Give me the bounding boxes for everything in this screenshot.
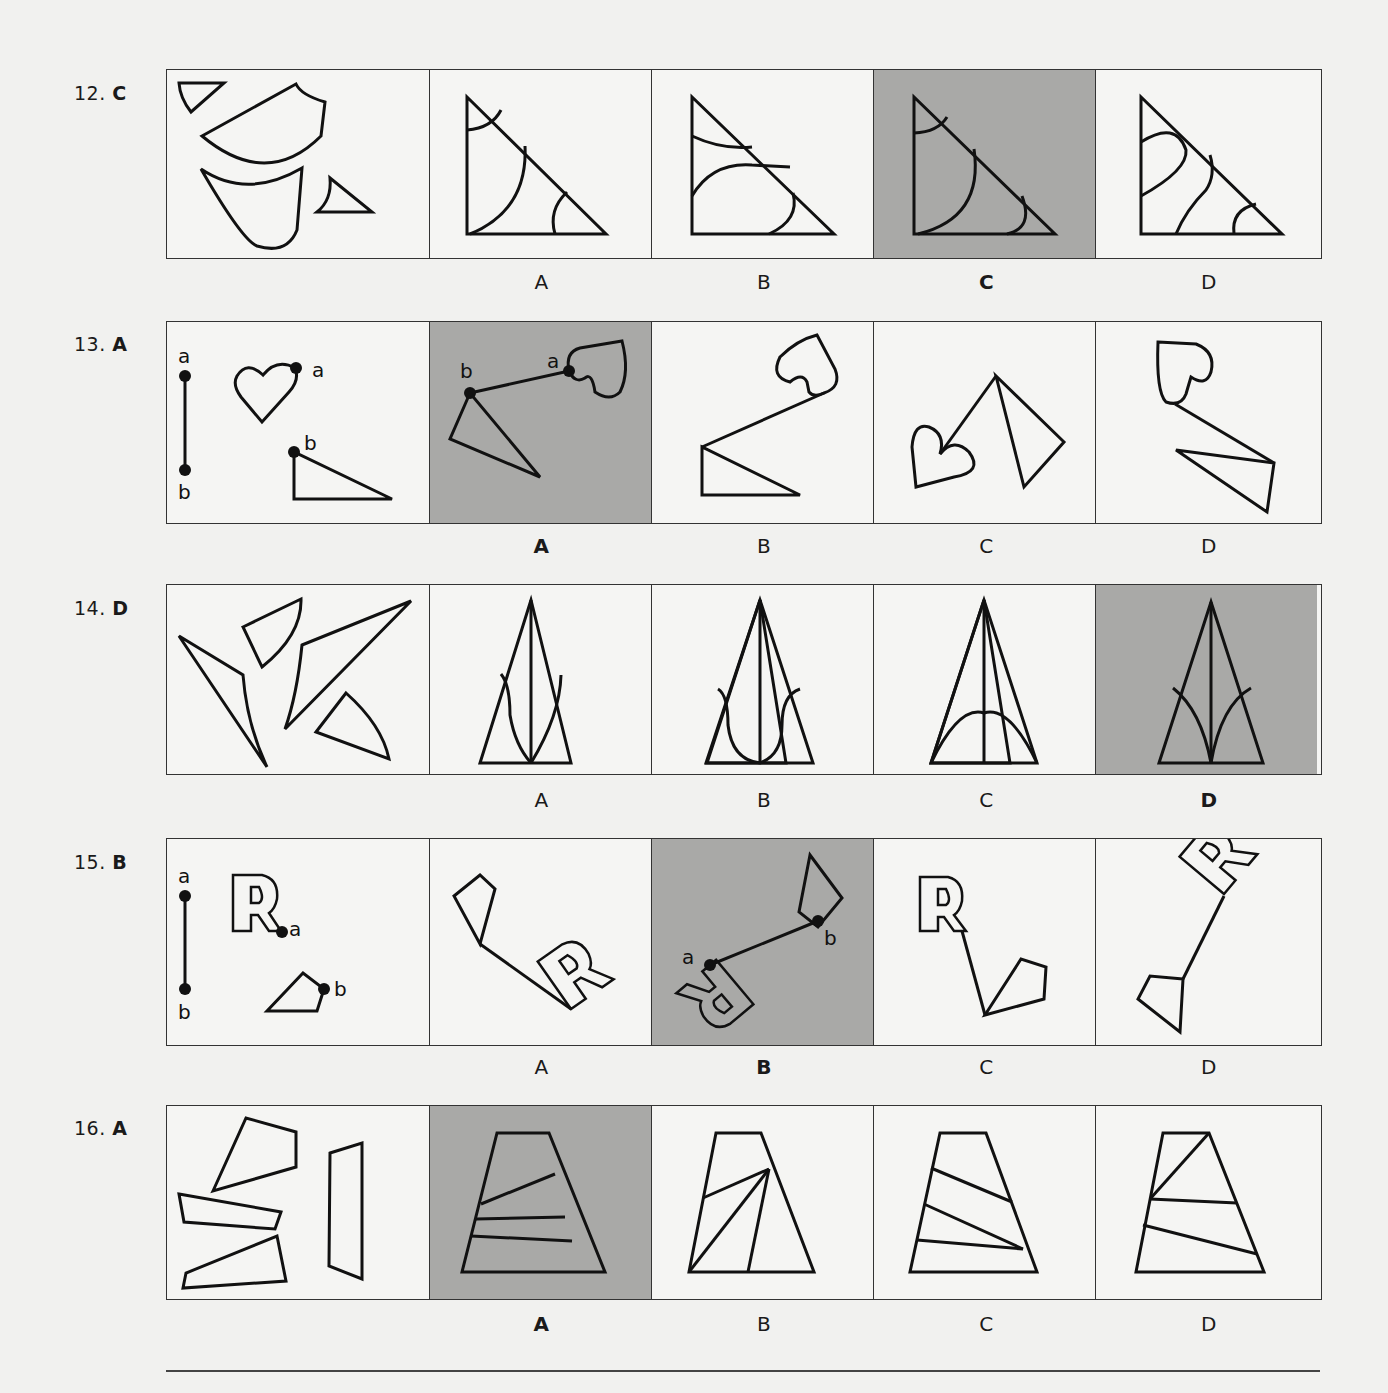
svg-text:b: b <box>178 480 191 504</box>
option-label: C <box>875 1055 1098 1079</box>
divided-triangle-icon <box>652 585 873 774</box>
divided-trapezoid-icon <box>430 1106 651 1299</box>
svg-text:b: b <box>304 431 317 455</box>
joined-shapes-icon: a b <box>652 839 873 1045</box>
option-label: B <box>653 270 876 294</box>
option-12-B[interactable] <box>652 70 874 258</box>
question-15-pieces: a b a b <box>167 839 430 1045</box>
option-label: D <box>1098 270 1321 294</box>
question-number-14: 14. D <box>74 597 129 619</box>
option-label: C <box>875 788 1098 812</box>
option-14-D[interactable] <box>1096 585 1317 774</box>
question-12-row <box>166 69 1322 259</box>
option-label: D <box>1098 534 1321 558</box>
answer-key: C <box>112 82 126 104</box>
option-labels-16: A B C D <box>430 1312 1320 1336</box>
option-label-selected: B <box>653 1055 876 1079</box>
option-14-C[interactable] <box>874 585 1096 774</box>
question-number: 16. <box>74 1117 106 1139</box>
option-16-A[interactable] <box>430 1106 652 1299</box>
option-14-B[interactable] <box>652 585 874 774</box>
shape-pieces-icon: a b a b <box>167 322 429 523</box>
option-12-A[interactable] <box>430 70 652 258</box>
svg-text:a: a <box>178 864 190 888</box>
question-15-row: a b a b a b <box>166 838 1322 1046</box>
option-label: C <box>875 534 1098 558</box>
option-13-C[interactable] <box>874 322 1096 523</box>
divided-triangle-icon <box>430 585 651 774</box>
svg-text:a: a <box>312 358 324 382</box>
svg-text:a: a <box>178 344 190 368</box>
option-label: B <box>653 788 876 812</box>
svg-text:b: b <box>178 1000 191 1024</box>
option-14-A[interactable] <box>430 585 652 774</box>
option-labels-13: A B C D <box>430 534 1320 558</box>
svg-text:a: a <box>682 945 694 969</box>
option-label: B <box>653 534 876 558</box>
option-labels-15: A B C D <box>430 1055 1320 1079</box>
option-16-B[interactable] <box>652 1106 874 1299</box>
option-label: A <box>430 270 653 294</box>
question-number-12: 12. C <box>74 82 127 104</box>
question-number: 13. <box>74 333 106 355</box>
answer-key: A <box>112 1117 127 1139</box>
option-13-A[interactable]: b a <box>430 322 652 523</box>
answer-key: D <box>112 597 128 619</box>
joined-shapes-icon <box>874 322 1095 523</box>
svg-text:b: b <box>334 977 347 1001</box>
option-12-D[interactable] <box>1096 70 1317 258</box>
option-label: B <box>653 1312 876 1336</box>
question-number: 14. <box>74 597 106 619</box>
option-12-C[interactable] <box>874 70 1096 258</box>
triangle-with-arcs-icon <box>874 70 1095 258</box>
joined-shapes-icon <box>652 322 873 523</box>
question-14-pieces <box>167 585 430 774</box>
joined-shapes-icon <box>1096 839 1317 1045</box>
answer-key: B <box>112 851 127 873</box>
divided-triangle-icon <box>874 585 1095 774</box>
option-label: D <box>1098 1055 1321 1079</box>
option-labels-14: A B C D <box>430 788 1320 812</box>
shape-pieces-icon: a b a b <box>167 839 429 1045</box>
option-13-B[interactable] <box>652 322 874 523</box>
triangle-with-arcs-icon <box>1096 70 1317 258</box>
question-number-16: 16. A <box>74 1117 127 1139</box>
option-15-C[interactable] <box>874 839 1096 1045</box>
option-label: D <box>1098 1312 1321 1336</box>
question-13-row: a b a b b a <box>166 321 1322 524</box>
triangle-with-arcs-icon <box>430 70 651 258</box>
divided-trapezoid-icon <box>652 1106 873 1299</box>
option-label-selected: A <box>430 1312 653 1336</box>
option-label: A <box>430 788 653 812</box>
svg-text:a: a <box>289 917 301 941</box>
divided-trapezoid-icon <box>874 1106 1095 1299</box>
option-label-selected: D <box>1098 788 1321 812</box>
option-13-D[interactable] <box>1096 322 1317 523</box>
question-12-pieces <box>167 70 430 258</box>
option-label: A <box>430 1055 653 1079</box>
question-14-row <box>166 584 1322 775</box>
joined-shapes-icon: b a <box>430 322 651 523</box>
shape-pieces-icon <box>167 70 429 258</box>
option-labels-12: A B C D <box>430 270 1320 294</box>
shape-pieces-icon <box>167 1106 429 1299</box>
option-15-D[interactable] <box>1096 839 1317 1045</box>
option-15-B[interactable]: a b <box>652 839 874 1045</box>
option-label: C <box>875 1312 1098 1336</box>
option-label-selected: A <box>430 534 653 558</box>
option-15-A[interactable] <box>430 839 652 1045</box>
svg-text:b: b <box>460 359 473 383</box>
svg-text:b: b <box>824 926 837 950</box>
option-label-selected: C <box>875 270 1098 294</box>
option-16-D[interactable] <box>1096 1106 1317 1299</box>
question-number-13: 13. A <box>74 333 127 355</box>
divided-triangle-icon <box>1096 585 1317 774</box>
svg-text:a: a <box>547 349 559 373</box>
question-13-pieces: a b a b <box>167 322 430 523</box>
option-16-C[interactable] <box>874 1106 1096 1299</box>
joined-shapes-icon <box>1096 322 1317 523</box>
question-number-15: 15. B <box>74 851 127 873</box>
shape-pieces-icon <box>167 585 429 774</box>
answer-key: A <box>112 333 127 355</box>
page-divider <box>166 1370 1320 1372</box>
